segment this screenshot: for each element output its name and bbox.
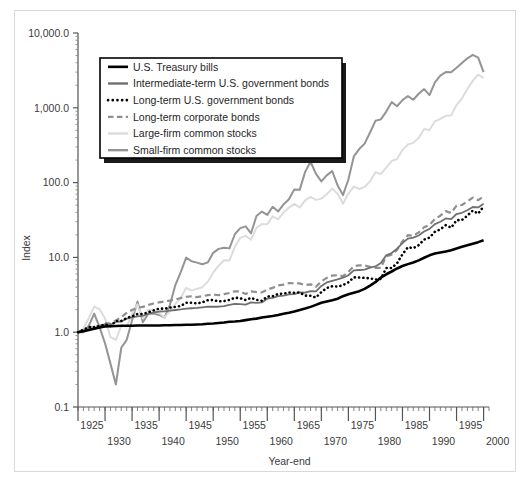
y-tick-label: 0.1 (54, 401, 69, 413)
y-tick-label: 1,000.0 (34, 102, 69, 114)
x-tick-label: 1975 (351, 419, 375, 431)
y-tick-label: 10.0 (49, 251, 70, 263)
x-tick-label: 2000 (486, 435, 510, 447)
figure-container: 10,000.01,000.0100.010.01.00.11925193519… (0, 0, 529, 484)
legend-label: Small-firm common stocks (133, 144, 256, 156)
x-tick-label: 1995 (459, 419, 483, 431)
x-tick-label: 1945 (188, 419, 212, 431)
y-tick-label: 100.0 (43, 176, 69, 188)
x-tick-label: 1955 (243, 419, 267, 431)
y-axis-ticks: 10,000.01,000.0100.010.01.00.1 (28, 27, 78, 413)
x-tick-label: 1965 (297, 419, 321, 431)
x-tick-label: 1940 (161, 435, 185, 447)
series-line (78, 204, 484, 332)
legend-label: Intermediate-term U.S. government bonds (133, 77, 329, 89)
y-axis-title: Index (20, 234, 32, 260)
x-tick-label: 1950 (216, 435, 240, 447)
x-tick-label: 1935 (134, 419, 158, 431)
x-tick-label: 1925 (80, 419, 104, 431)
x-tick-label: 1930 (107, 435, 131, 447)
legend-label: Long-term U.S. government bonds (133, 94, 294, 106)
x-tick-labels-upper: 19251935194519551965197519851995 (80, 419, 482, 431)
legend-label: Large-firm common stocks (133, 127, 257, 139)
x-axis-title: Year-end (268, 455, 310, 467)
series-line (78, 240, 484, 332)
legend-label: U.S. Treasury bills (133, 61, 218, 73)
x-tick-labels-lower: 19301940195019601970198019902000 (107, 435, 509, 447)
legend: U.S. Treasury billsIntermediate-term U.S… (100, 58, 346, 163)
x-tick-label: 1960 (270, 435, 294, 447)
x-tick-label: 1985 (405, 419, 429, 431)
x-tick-label: 1990 (432, 435, 456, 447)
x-tick-label: 1970 (324, 435, 348, 447)
y-tick-label: 10,000.0 (28, 27, 69, 39)
index-growth-chart: 10,000.01,000.0100.010.01.00.11925193519… (0, 0, 529, 484)
legend-label: Long-term corporate bonds (133, 111, 260, 123)
x-tick-label: 1980 (378, 435, 402, 447)
y-tick-label: 1.0 (54, 326, 69, 338)
